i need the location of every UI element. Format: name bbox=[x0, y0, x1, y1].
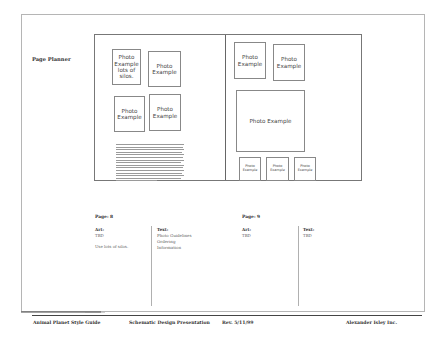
photo-placeholder: Photo Example bbox=[148, 51, 181, 87]
column-divider bbox=[298, 226, 299, 306]
text-value: TBD bbox=[303, 233, 312, 239]
column-divider bbox=[151, 226, 152, 306]
sheet-shadow bbox=[85, 312, 105, 313]
page-number-label: Page: 8 bbox=[95, 214, 113, 219]
footer-presentation: Schematic Design Presentation bbox=[129, 320, 210, 325]
footer-rule bbox=[32, 315, 422, 316]
page-number-label: Page: 9 bbox=[242, 214, 260, 219]
page-spread: Photo Example lots of silos. Photo Examp… bbox=[94, 34, 362, 181]
photo-placeholder: Photo Example bbox=[294, 157, 316, 181]
photo-placeholder: Photo Example bbox=[236, 90, 305, 152]
photo-placeholder: Photo Example bbox=[149, 94, 181, 131]
footer-guide-title: Animal Planet Style Guide bbox=[33, 320, 101, 325]
art-value: TBD bbox=[95, 233, 104, 239]
text-label: Text: bbox=[157, 227, 168, 232]
text-value: Photo Guidelines Ordering Information bbox=[157, 233, 192, 250]
art-note: Use lots of silos. bbox=[95, 244, 128, 250]
photo-placeholder: Photo Example bbox=[273, 44, 305, 81]
footer-revision: Rev. 5/11/99 bbox=[222, 320, 253, 325]
body-text-placeholder bbox=[116, 144, 184, 194]
art-value: TBD bbox=[242, 233, 251, 239]
photo-placeholder: Photo Example bbox=[266, 157, 289, 181]
photo-placeholder: Photo Example bbox=[239, 157, 261, 181]
spread-gutter bbox=[225, 35, 226, 180]
photo-placeholder: Photo Example lots of silos. bbox=[112, 49, 141, 85]
text-label: Text: bbox=[303, 227, 314, 232]
page-title: Page Planner bbox=[32, 56, 71, 62]
photo-placeholder: Photo Example bbox=[114, 96, 145, 132]
art-label: Art: bbox=[95, 227, 104, 232]
photo-placeholder: Photo Example bbox=[234, 42, 266, 79]
art-label: Art: bbox=[242, 227, 251, 232]
footer-company: Alexander Isley Inc. bbox=[346, 320, 397, 325]
